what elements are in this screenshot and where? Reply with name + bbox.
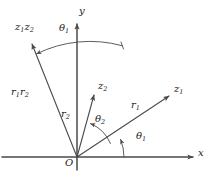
y-axis-label: y — [79, 6, 85, 16]
origin-label: O — [65, 158, 73, 168]
theta2-arc — [91, 124, 111, 144]
magnitude-r1-label: r1 — [131, 100, 140, 110]
angle-theta1-upper-label: θ1 — [59, 23, 69, 33]
vector-z1-label: z1 — [174, 84, 183, 94]
vector-z1z2-label: z1z2 — [15, 22, 34, 32]
theta1-lower-arc — [121, 139, 124, 157]
magnitude-r1r2-label: r1r2 — [11, 87, 29, 97]
x-axis-label: x — [198, 148, 204, 158]
magnitude-r2-label: r2 — [61, 109, 70, 119]
angle-theta2-label: θ2 — [95, 114, 105, 124]
vector-z2-label: z2 — [98, 81, 107, 91]
vector-z1z2 — [32, 44, 77, 157]
complex-multiplication-diagram: y x O z1 z2 z1z2 r1 r2 r1r2 θ1 θ2 θ1 — [0, 0, 210, 185]
angle-theta1-lower-label: θ1 — [136, 131, 146, 141]
theta1-upper-arc — [37, 41, 123, 54]
